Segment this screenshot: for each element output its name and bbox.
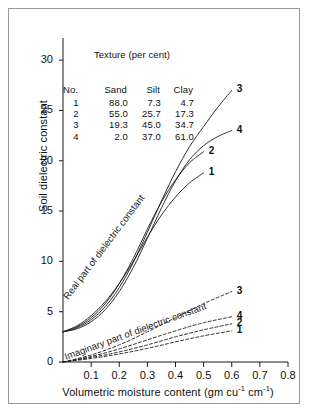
- x-tick-label: 0.8: [275, 369, 301, 381]
- x-axis-label-text: Volumetric moisture content (gm cu: [62, 386, 238, 398]
- cell-silt: 7.3: [128, 97, 161, 108]
- cell-silt: 37.0: [128, 131, 161, 142]
- annotation-real-part: Real part of dielectric constant: [61, 192, 147, 301]
- x-axis-exponent-2: -1: [263, 384, 270, 393]
- column-header-sand: Sand: [90, 83, 128, 97]
- y-tick-label: 20: [31, 154, 53, 166]
- cell-silt: 25.7: [128, 108, 161, 119]
- x-tick-label: 0.7: [247, 369, 273, 381]
- column-header-clay: Clay: [161, 83, 194, 97]
- x-axis-label-mid: cm: [245, 386, 263, 398]
- cell-no: 2: [62, 108, 90, 119]
- curve-label-real-3: 3: [237, 83, 243, 94]
- curve-label-real-2: 2: [209, 145, 215, 156]
- y-tick-label: 25: [31, 103, 53, 115]
- cell-clay: 34.7: [161, 119, 194, 130]
- cell-no: 4: [62, 131, 90, 142]
- x-tick-label: 0.4: [163, 369, 189, 381]
- x-axis-label: Volumetric moisture content (gm cu-1 cm-…: [40, 386, 296, 398]
- curve-label-imaginary-3: 3: [237, 285, 243, 296]
- y-tick-label: 10: [31, 254, 53, 266]
- cell-clay: 4.7: [161, 97, 194, 108]
- x-tick-label: 0.3: [134, 369, 160, 381]
- x-axis-exponent-1: -1: [238, 384, 245, 393]
- x-tick-label: 0.6: [219, 369, 245, 381]
- column-header-silt: Silt: [128, 83, 161, 97]
- cell-no: 1: [62, 97, 90, 108]
- cell-sand: 88.0: [90, 97, 128, 108]
- table-row: 3 19.3 45.0 34.7: [62, 119, 194, 130]
- x-tick-label: 0.1: [78, 369, 104, 381]
- curve-label-real-1: 1: [209, 166, 215, 177]
- curve-label-real-4: 4: [237, 124, 243, 135]
- cell-sand: 55.0: [90, 108, 128, 119]
- y-tick-label: 0: [31, 355, 53, 367]
- annotation-imaginary-part: Imaginary part of dielectric constant: [63, 300, 208, 362]
- cell-clay: 17.3: [161, 108, 194, 119]
- texture-table-header-row: No. Sand Silt Clay: [62, 83, 194, 97]
- table-row: 4 2.0 37.0 61.0: [62, 131, 194, 142]
- cell-sand: 19.3: [90, 119, 128, 130]
- x-tick-label: 0.2: [106, 369, 132, 381]
- cell-sand: 2.0: [90, 131, 128, 142]
- x-tick-label: 0.5: [191, 369, 217, 381]
- y-tick-label: 15: [31, 204, 53, 216]
- curve-real-2: [63, 152, 204, 332]
- column-header-no: No.: [62, 83, 90, 97]
- cell-silt: 45.0: [128, 119, 161, 130]
- texture-table-grid: No. Sand Silt Clay 1 88.0 7.3 4.7 2 55.0…: [62, 83, 194, 142]
- curve-label-imaginary-4: 4: [237, 310, 243, 321]
- inline-annotations: Real part of dielectric constantImaginar…: [61, 192, 208, 362]
- table-row: 2 55.0 25.7 17.3: [62, 108, 194, 119]
- y-tick-label: 5: [31, 305, 53, 317]
- cell-clay: 61.0: [161, 131, 194, 142]
- cell-no: 3: [62, 119, 90, 130]
- table-row: 1 88.0 7.3 4.7: [62, 97, 194, 108]
- y-tick-label: 30: [31, 53, 53, 65]
- texture-table: Texture (per cent) No. Sand Silt Clay 1 …: [62, 26, 202, 154]
- texture-table-title: Texture (per cent): [62, 49, 202, 60]
- x-axis-label-suffix: ): [270, 386, 274, 398]
